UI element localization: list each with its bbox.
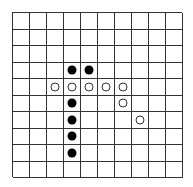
board-cell[interactable] <box>81 112 98 129</box>
board-cell[interactable] <box>98 13 115 30</box>
board-cell[interactable] <box>30 129 47 146</box>
board-cell[interactable] <box>166 79 183 96</box>
board-cell[interactable] <box>98 30 115 47</box>
board-cell[interactable] <box>13 13 30 30</box>
board-cell[interactable] <box>166 63 183 80</box>
board-cell[interactable] <box>132 30 149 47</box>
board-cell[interactable] <box>132 145 149 162</box>
board-cell[interactable] <box>115 63 132 80</box>
board-cell[interactable] <box>30 112 47 129</box>
board-cell[interactable] <box>13 145 30 162</box>
board-cell[interactable] <box>47 129 64 146</box>
board-cell[interactable] <box>30 46 47 63</box>
board-cell[interactable] <box>132 63 149 80</box>
board-cell[interactable] <box>98 112 115 129</box>
board-cell[interactable] <box>98 63 115 80</box>
board-cell[interactable] <box>115 30 132 47</box>
board-cell[interactable] <box>132 162 149 179</box>
board-cell[interactable] <box>81 96 98 113</box>
board-cell[interactable] <box>47 162 64 179</box>
board-cell[interactable] <box>64 13 81 30</box>
board-cell[interactable] <box>64 129 81 146</box>
board-cell[interactable] <box>64 30 81 47</box>
board-cell[interactable] <box>64 145 81 162</box>
board-cell[interactable] <box>149 96 166 113</box>
board-cell[interactable] <box>115 96 132 113</box>
board-cell[interactable] <box>13 63 30 80</box>
board-cell[interactable] <box>132 46 149 63</box>
board-cell[interactable] <box>115 46 132 63</box>
board-cell[interactable] <box>115 13 132 30</box>
board-cell[interactable] <box>115 112 132 129</box>
board-cell[interactable] <box>98 129 115 146</box>
board-cell[interactable] <box>13 46 30 63</box>
board-cell[interactable] <box>13 112 30 129</box>
board-cell[interactable] <box>149 129 166 146</box>
board-cell[interactable] <box>47 63 64 80</box>
board-cell[interactable] <box>13 96 30 113</box>
board-cell[interactable] <box>132 129 149 146</box>
board-cell[interactable] <box>13 30 30 47</box>
board-cell[interactable] <box>81 13 98 30</box>
board-cell[interactable] <box>64 46 81 63</box>
board-cell[interactable] <box>132 13 149 30</box>
board-cell[interactable] <box>132 96 149 113</box>
board-cell[interactable] <box>47 96 64 113</box>
board-cell[interactable] <box>64 162 81 179</box>
board-cell[interactable] <box>30 162 47 179</box>
board-cell[interactable] <box>30 79 47 96</box>
board-cell[interactable] <box>149 13 166 30</box>
board-cell[interactable] <box>47 145 64 162</box>
board-cell[interactable] <box>47 46 64 63</box>
board-cell[interactable] <box>132 79 149 96</box>
board-cell[interactable] <box>115 129 132 146</box>
board-cell[interactable] <box>81 129 98 146</box>
board-cell[interactable] <box>47 13 64 30</box>
board-cell[interactable] <box>64 96 81 113</box>
board-cell[interactable] <box>166 13 183 30</box>
board-cell[interactable] <box>81 145 98 162</box>
board-cell[interactable] <box>166 112 183 129</box>
board-cell[interactable] <box>166 145 183 162</box>
board-cell[interactable] <box>166 162 183 179</box>
board-cell[interactable] <box>115 162 132 179</box>
board-cell[interactable] <box>81 79 98 96</box>
board-cell[interactable] <box>13 79 30 96</box>
board-cell[interactable] <box>115 145 132 162</box>
board-cell[interactable] <box>149 30 166 47</box>
board-cell[interactable] <box>166 96 183 113</box>
board-cell[interactable] <box>30 96 47 113</box>
board-cell[interactable] <box>64 79 81 96</box>
board-cell[interactable] <box>81 46 98 63</box>
board-cell[interactable] <box>64 63 81 80</box>
board-cell[interactable] <box>149 162 166 179</box>
board-cell[interactable] <box>30 13 47 30</box>
board-cell[interactable] <box>149 63 166 80</box>
board-cell[interactable] <box>81 30 98 47</box>
board-cell[interactable] <box>149 145 166 162</box>
board-cell[interactable] <box>149 112 166 129</box>
board-cell[interactable] <box>166 129 183 146</box>
board-cell[interactable] <box>98 145 115 162</box>
board-cell[interactable] <box>149 79 166 96</box>
board-cell[interactable] <box>166 46 183 63</box>
board-cell[interactable] <box>149 46 166 63</box>
board-cell[interactable] <box>98 79 115 96</box>
board-cell[interactable] <box>98 162 115 179</box>
board-cell[interactable] <box>47 79 64 96</box>
board-cell[interactable] <box>64 112 81 129</box>
board-cell[interactable] <box>98 96 115 113</box>
board-cell[interactable] <box>98 46 115 63</box>
board-cell[interactable] <box>81 162 98 179</box>
board-cell[interactable] <box>115 79 132 96</box>
board-cell[interactable] <box>13 129 30 146</box>
board-cell[interactable] <box>47 30 64 47</box>
board-cell[interactable] <box>30 145 47 162</box>
board-cell[interactable] <box>30 30 47 47</box>
board-cell[interactable] <box>13 162 30 179</box>
board-cell[interactable] <box>132 112 149 129</box>
board-cell[interactable] <box>47 112 64 129</box>
board-cell[interactable] <box>81 63 98 80</box>
board-cell[interactable] <box>166 30 183 47</box>
board-cell[interactable] <box>30 63 47 80</box>
